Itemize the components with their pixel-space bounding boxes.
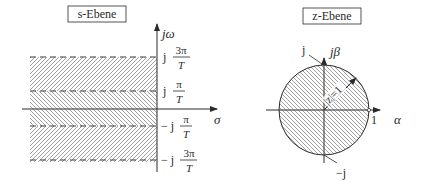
s-real-axis-label: σ — [214, 112, 221, 127]
z-real-axis-label: α — [394, 112, 402, 127]
label-minus-j: −j — [336, 166, 346, 180]
tick-minus-pi: − j π T — [161, 113, 192, 140]
z-plane-title: z-Ebene — [312, 9, 351, 23]
point-one — [367, 108, 370, 111]
svg-text:j: j — [162, 84, 166, 98]
svg-text:T: T — [183, 128, 190, 140]
svg-text:T: T — [186, 162, 193, 174]
z-plane: z-Ebene |z|=1 j jβ −j 1 α — [266, 8, 402, 180]
z-imag-axis-label: jβ — [328, 44, 341, 59]
s-imag-axis-label: jω — [160, 26, 175, 41]
z-plane-title-box: z-Ebene — [303, 8, 361, 24]
svg-text:π: π — [176, 78, 182, 90]
s-plane-title: s-Ebene — [78, 7, 117, 21]
svg-text:π: π — [183, 113, 189, 125]
tick-pi: j π T — [162, 78, 185, 105]
minus-j-pointer — [324, 155, 337, 163]
s-plane: s-Ebene jω σ j 3π T j π T — [22, 6, 221, 174]
s-plane-title-box: s-Ebene — [68, 6, 126, 22]
svg-text:T: T — [176, 93, 183, 105]
svg-text:3π: 3π — [183, 147, 195, 159]
j-pointer — [309, 55, 322, 64]
svg-text:− j: − j — [161, 153, 174, 167]
svg-text:T: T — [178, 59, 185, 71]
tick-3pi: j 3π T — [162, 44, 190, 71]
label-j: j — [301, 43, 305, 57]
tick-minus-3pi: − j 3π T — [161, 147, 197, 174]
svg-text:− j: − j — [161, 119, 174, 133]
strip-bottom-hatch — [30, 126, 157, 162]
s-z-mapping-diagram: s-Ebene jω σ j 3π T j π T — [0, 0, 421, 187]
label-one: 1 — [371, 113, 377, 127]
svg-text:j: j — [162, 50, 166, 64]
svg-text:3π: 3π — [175, 44, 187, 56]
strip-top-hatch — [30, 57, 157, 91]
